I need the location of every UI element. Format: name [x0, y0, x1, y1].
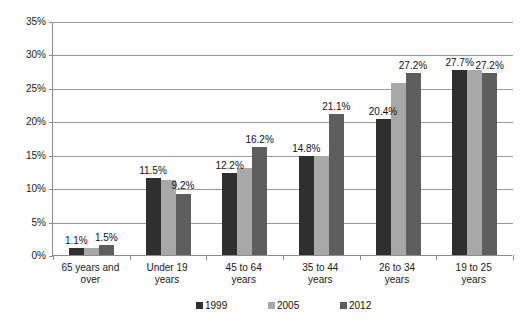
- plot-area: 0%5%10%15%20%25%30%35%1.1%1.5%11.5%9.2%1…: [52, 22, 512, 256]
- legend-item-2005[interactable]: 2005: [268, 300, 299, 311]
- x-axis-label-line: years: [282, 274, 359, 286]
- bar-1999-5[interactable]: [452, 70, 467, 255]
- y-axis-tick-label: 15%: [26, 151, 46, 161]
- x-axis-label-line: over: [52, 274, 129, 286]
- x-axis-tick: [283, 255, 284, 260]
- x-axis-tick: [360, 255, 361, 260]
- bar-2012-1[interactable]: [176, 194, 191, 256]
- legend-item-2012[interactable]: 2012: [340, 300, 371, 311]
- x-axis-label-line: 19 to 25: [435, 262, 512, 274]
- x-axis-label-line: 65 years and: [52, 262, 129, 274]
- y-axis-tick: [49, 122, 53, 123]
- bar-1999-2[interactable]: [222, 173, 237, 255]
- bar-value-label: 21.1%: [316, 102, 356, 112]
- bar-value-label: 27.2%: [470, 61, 510, 71]
- legend-label: 1999: [205, 300, 227, 311]
- x-axis-tick: [513, 255, 514, 260]
- bar-2012-4[interactable]: [406, 73, 421, 255]
- x-axis-label-5: 19 to 25years: [435, 262, 512, 286]
- bar-1999-1[interactable]: [146, 178, 161, 255]
- bar-2005-5[interactable]: [467, 70, 482, 255]
- x-axis-label-1: Under 19years: [129, 262, 206, 286]
- x-axis-label-line: years: [129, 274, 206, 286]
- bar-value-label: 9.2%: [163, 181, 203, 191]
- x-axis-label-line: 35 to 44: [282, 262, 359, 274]
- bar-value-label: 1.5%: [86, 233, 126, 243]
- y-axis-tick: [49, 55, 53, 56]
- gridline: [53, 189, 513, 190]
- bar-2005-2[interactable]: [237, 168, 252, 255]
- gridline: [53, 223, 513, 224]
- y-axis-tick: [49, 89, 53, 90]
- y-axis-tick-label: 30%: [26, 50, 46, 60]
- bar-value-label: 27.2%: [393, 61, 433, 71]
- y-axis-tick: [49, 189, 53, 190]
- legend-item-1999[interactable]: 1999: [196, 300, 227, 311]
- bar-value-label: 16.2%: [240, 135, 280, 145]
- legend-swatch-icon: [340, 302, 347, 309]
- y-axis-tick-label: 35%: [26, 17, 46, 27]
- legend-label: 2005: [277, 300, 299, 311]
- bar-2005-3[interactable]: [314, 156, 329, 255]
- gridline: [53, 122, 513, 123]
- y-axis-tick: [49, 223, 53, 224]
- bar-1999-4[interactable]: [376, 119, 391, 255]
- y-axis-tick-label: 0%: [32, 251, 46, 261]
- x-axis-label-4: 26 to 34years: [359, 262, 436, 286]
- x-axis-tick: [206, 255, 207, 260]
- x-axis-tick: [130, 255, 131, 260]
- bar-value-label: 12.2%: [210, 161, 250, 171]
- bar-value-label: 20.4%: [363, 107, 403, 117]
- y-axis-tick: [49, 22, 53, 23]
- gridline: [53, 156, 513, 157]
- legend-swatch-icon: [268, 302, 275, 309]
- bar-1999-0[interactable]: [69, 248, 84, 255]
- bar-2012-5[interactable]: [482, 73, 497, 255]
- y-axis-tick-label: 25%: [26, 84, 46, 94]
- legend-swatch-icon: [196, 302, 203, 309]
- x-axis-label-line: years: [359, 274, 436, 286]
- bar-value-label: 11.5%: [133, 166, 173, 176]
- x-axis-label-line: 45 to 64: [205, 262, 282, 274]
- gridline: [53, 55, 513, 56]
- bar-2012-2[interactable]: [252, 147, 267, 255]
- y-axis-tick-label: 20%: [26, 117, 46, 127]
- x-axis-tick: [436, 255, 437, 260]
- bar-1999-3[interactable]: [299, 156, 314, 255]
- bar-2012-0[interactable]: [99, 245, 114, 255]
- x-axis-label-line: 26 to 34: [359, 262, 436, 274]
- bar-2005-0[interactable]: [84, 248, 99, 255]
- x-axis-label-line: years: [435, 274, 512, 286]
- legend-label: 2012: [349, 300, 371, 311]
- x-axis-label-line: Under 19: [129, 262, 206, 274]
- gridline: [53, 22, 513, 23]
- x-axis-label-2: 45 to 64years: [205, 262, 282, 286]
- x-axis-label-0: 65 years andover: [52, 262, 129, 286]
- x-axis-label-3: 35 to 44years: [282, 262, 359, 286]
- gridline: [53, 89, 513, 90]
- bar-value-label: 14.8%: [286, 144, 326, 154]
- y-axis-tick-label: 10%: [26, 184, 46, 194]
- y-axis-tick-label: 5%: [32, 218, 46, 228]
- chart-legend: 199920052012: [0, 300, 531, 314]
- x-axis-tick: [53, 255, 54, 260]
- bar-2012-3[interactable]: [329, 114, 344, 255]
- x-axis-label-line: years: [205, 274, 282, 286]
- y-axis-tick: [49, 156, 53, 157]
- bar-chart: 0%5%10%15%20%25%30%35%1.1%1.5%11.5%9.2%1…: [0, 0, 531, 329]
